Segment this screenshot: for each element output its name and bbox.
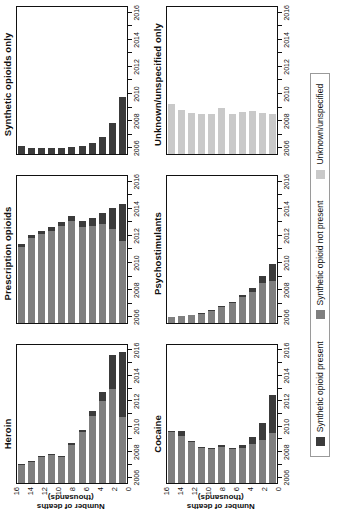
x-axis-tick-label: 2010	[133, 255, 140, 271]
bar	[68, 345, 75, 483]
x-axis-tick-label: 2016	[283, 174, 290, 190]
bar	[229, 7, 236, 154]
panel-heroin: HeroinNumber of deaths (thousands)161412…	[0, 338, 150, 530]
y-axis-ticks: 1614121086420	[166, 487, 278, 509]
plot-area	[16, 344, 128, 484]
bar-segment	[168, 431, 175, 432]
panel-grid: HeroinNumber of deaths (thousands)161412…	[0, 0, 300, 530]
x-axis-tick	[278, 235, 282, 236]
x-axis-tick-label: 2016	[283, 343, 290, 359]
bar	[109, 176, 116, 323]
bar-segment	[119, 417, 126, 483]
bar	[249, 345, 256, 483]
bar	[18, 176, 25, 323]
bar-segment	[109, 229, 116, 323]
bar-segment	[239, 445, 246, 448]
bar	[218, 176, 225, 323]
bar-segment	[79, 221, 86, 227]
bar	[18, 345, 25, 483]
bar-segment	[269, 433, 276, 483]
legend-label-present: Synthetic opioid present	[315, 342, 325, 433]
bar-segment	[119, 352, 126, 418]
legend-swatch-icon-not-present	[316, 311, 325, 320]
bar	[38, 7, 45, 154]
bar-segment	[208, 449, 215, 483]
bar-segment	[58, 148, 65, 154]
y-axis-tick-label: 6	[82, 487, 91, 509]
bar-segment	[168, 432, 175, 483]
x-axis-tick	[278, 221, 282, 222]
x-axis-tick-label: 2006	[283, 140, 290, 156]
y-axis-tick-label: 8	[68, 487, 77, 509]
bar-segment	[259, 113, 266, 154]
bar-segment	[259, 440, 266, 483]
x-axis: 200620082010201220142016	[128, 344, 148, 484]
bar	[58, 7, 65, 154]
legend-box: Synthetic opioid present Synthetic opioi…	[310, 73, 330, 457]
bar	[99, 176, 106, 323]
bar	[68, 7, 75, 154]
bar-segment	[208, 449, 215, 450]
x-axis-tick	[278, 25, 282, 26]
bar-segment	[28, 238, 35, 323]
bar-segment	[79, 146, 86, 154]
bar	[188, 345, 195, 483]
x-axis-tick	[278, 388, 282, 389]
x-axis-tick	[128, 426, 132, 427]
x-axis-tick	[278, 194, 282, 195]
bar-segment	[119, 97, 126, 154]
x-axis-tick-label: 2014	[283, 201, 290, 217]
bar-segment	[99, 392, 106, 401]
y-axis-tick-label: 4	[96, 487, 105, 509]
bar-segment	[198, 114, 205, 154]
bar	[38, 345, 45, 483]
x-axis-tick	[128, 235, 132, 236]
bar-segment	[89, 226, 96, 323]
bar-segment	[28, 149, 35, 155]
x-axis-tick	[128, 120, 132, 121]
x-axis-tick-label: 2012	[283, 228, 290, 244]
plot-area	[16, 6, 128, 155]
x-axis-tick-label: 2014	[283, 368, 290, 384]
bar-segment	[208, 310, 215, 311]
bar-segment	[239, 295, 246, 297]
x-axis-tick	[128, 52, 132, 53]
x-axis-tick-label: 2006	[133, 140, 140, 156]
plot-area	[166, 6, 278, 155]
bar	[68, 176, 75, 323]
plot-area	[16, 175, 128, 324]
bar	[119, 7, 126, 154]
x-axis-tick	[278, 249, 282, 250]
x-axis-tick	[128, 181, 132, 182]
legend-label-not-present: Synthetic opioid not present	[315, 201, 325, 306]
x-axis-tick-label: 2010	[283, 255, 290, 271]
legend-item-synthetic-opioid-present: Synthetic opioid present	[315, 342, 325, 447]
bar-segment	[58, 456, 65, 457]
panel-synthetic-opioids-only: Synthetic opioids only200620082010201220…	[0, 0, 150, 169]
bar	[229, 176, 236, 323]
y-axis-tick-label: 0	[274, 487, 283, 509]
bar	[229, 345, 236, 483]
x-axis-tick-label: 2014	[133, 32, 140, 48]
bar-segment	[178, 110, 185, 154]
x-axis-tick-label: 2008	[133, 282, 140, 298]
bar-segment	[269, 115, 276, 155]
bar	[38, 176, 45, 323]
bar-segment	[48, 231, 55, 323]
y-axis-tick-label: 12	[190, 487, 199, 509]
bar-segment	[99, 213, 106, 224]
bar-segment	[239, 448, 246, 483]
x-axis-tick	[128, 107, 132, 108]
bar-segment	[109, 355, 116, 389]
legend-swatch-icon-present	[316, 437, 325, 446]
y-axis-tick-label: 16	[12, 487, 21, 509]
bar-segment	[18, 244, 25, 247]
panel-title: Synthetic opioids only	[2, 0, 13, 169]
y-axis-ticks: 1614121086420	[16, 487, 128, 509]
x-axis-tick-label: 2006	[283, 470, 290, 486]
x-axis-tick-label: 2010	[283, 86, 290, 102]
bar-segment	[38, 234, 45, 323]
x-axis-tick-label: 2008	[283, 282, 290, 298]
bar-segment	[188, 315, 195, 323]
panel-row-top: HeroinNumber of deaths (thousands)161412…	[0, 0, 150, 530]
